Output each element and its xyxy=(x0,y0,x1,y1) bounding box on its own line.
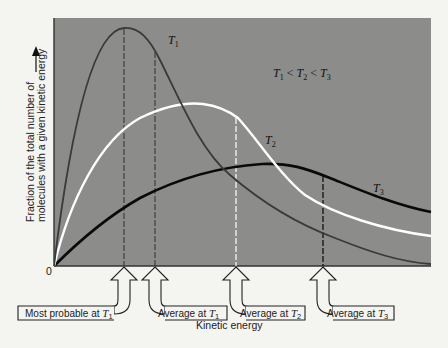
arrow-average-t3 xyxy=(310,267,336,314)
energy-distribution-chart: T1 T2 T3 T1 < T2 < T3 Fraction of the to… xyxy=(0,0,448,348)
x-axis-label: Kinetic energy xyxy=(196,319,263,331)
callout-most-probable-t1: Most probable at T1 xyxy=(25,307,113,321)
origin-label: 0 xyxy=(46,265,52,277)
arrow-average-t1 xyxy=(142,267,168,314)
arrow-most-probable-t1 xyxy=(111,267,137,314)
callout-average-t3: Average at T3 xyxy=(327,307,388,321)
y-axis-label-line2: molecules with a given kinetic energy xyxy=(35,48,47,222)
callout-average-t2: Average at T2 xyxy=(240,307,301,321)
callout-average-t1: Average at T1 xyxy=(158,307,219,321)
